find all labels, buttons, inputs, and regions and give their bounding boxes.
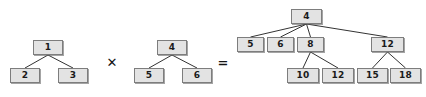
tree-node-5: 5 bbox=[134, 68, 164, 83]
tree-node-2: 2 bbox=[10, 68, 40, 83]
tree-node-4: 4 bbox=[157, 40, 187, 55]
tree-node-5: 5 bbox=[237, 37, 264, 52]
tree-node-3: 3 bbox=[58, 68, 88, 83]
tree-node-6: 6 bbox=[182, 68, 212, 83]
tree-edge bbox=[307, 24, 388, 37]
tree-multiplication-diagram: 12345645681210121518 ✕= bbox=[0, 0, 426, 97]
tree-node-4: 4 bbox=[291, 9, 322, 24]
tree-edge bbox=[251, 24, 307, 37]
tree-edge bbox=[25, 55, 48, 68]
tree-edge bbox=[281, 24, 307, 37]
operator-equals: = bbox=[216, 55, 230, 69]
operator-times: ✕ bbox=[105, 55, 119, 69]
tree-edge bbox=[307, 24, 311, 37]
tree-edge bbox=[48, 55, 73, 68]
tree-node-1: 1 bbox=[33, 40, 63, 55]
tree-node-18: 18 bbox=[390, 68, 421, 83]
tree-node-12: 12 bbox=[322, 68, 354, 83]
tree-edge bbox=[149, 55, 172, 68]
tree-node-12: 12 bbox=[371, 37, 404, 52]
tree-edge bbox=[303, 52, 311, 68]
tree-edge bbox=[172, 55, 197, 68]
tree-edge bbox=[311, 52, 339, 68]
tree-edge bbox=[373, 52, 388, 68]
tree-node-15: 15 bbox=[357, 68, 388, 83]
tree-edge bbox=[388, 52, 406, 68]
tree-node-10: 10 bbox=[287, 68, 319, 83]
tree-node-8: 8 bbox=[297, 37, 324, 52]
tree-node-6: 6 bbox=[267, 37, 294, 52]
